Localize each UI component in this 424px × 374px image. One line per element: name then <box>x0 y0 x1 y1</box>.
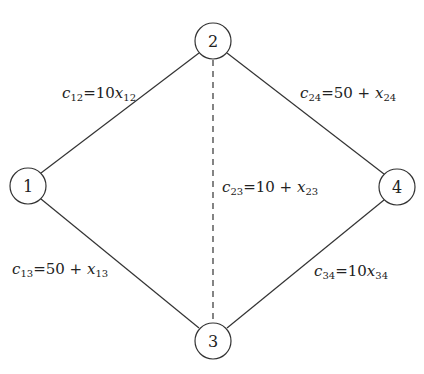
cost-subscript: 34 <box>322 270 335 281</box>
cost-subscript: 24 <box>308 92 321 103</box>
cost-constant: 10 <box>348 262 367 280</box>
cost-subscript: 12 <box>70 92 83 103</box>
network-diagram: 1 2 3 4 c12=10x12 c24=50 + x24 c23=10 + … <box>0 0 424 374</box>
cost-subscript: 23 <box>230 186 243 197</box>
node-3: 3 <box>195 323 231 359</box>
flow-subscript: 34 <box>375 270 388 281</box>
equals-sign: = <box>83 84 96 102</box>
node-4-label: 4 <box>392 178 402 197</box>
edge-1-2 <box>41 53 199 173</box>
operator: + <box>65 260 87 278</box>
cost-constant: 50 <box>334 84 353 102</box>
equals-sign: = <box>321 84 334 102</box>
flow-var: x <box>367 262 375 280</box>
operator: + <box>353 84 375 102</box>
cost-label-c23: c23=10 + x23 <box>222 180 318 197</box>
cost-label-c34: c34=10x34 <box>314 264 388 281</box>
equals-sign: = <box>33 260 46 278</box>
cost-constant: 10 <box>96 84 115 102</box>
node-1-label: 1 <box>23 177 33 196</box>
cost-label-c12: c12=10x12 <box>62 86 136 103</box>
graph-svg: 1 2 3 4 <box>0 0 424 374</box>
operator: + <box>275 178 297 196</box>
flow-var: x <box>115 84 123 102</box>
node-2: 2 <box>195 23 231 59</box>
equals-sign: = <box>335 262 348 280</box>
flow-subscript: 13 <box>95 268 108 279</box>
node-2-label: 2 <box>208 32 218 51</box>
node-3-label: 3 <box>208 332 218 351</box>
cost-constant: 50 <box>46 260 65 278</box>
cost-constant: 10 <box>256 178 275 196</box>
flow-subscript: 23 <box>305 186 318 197</box>
cost-label-c13: c13=50 + x13 <box>12 262 108 279</box>
cost-label-c24: c24=50 + x24 <box>300 86 396 103</box>
edge-2-4 <box>227 53 384 174</box>
node-1: 1 <box>10 168 46 204</box>
flow-subscript: 24 <box>383 92 396 103</box>
node-4: 4 <box>379 169 415 205</box>
cost-subscript: 13 <box>20 268 33 279</box>
flow-subscript: 12 <box>123 92 136 103</box>
equals-sign: = <box>243 178 256 196</box>
